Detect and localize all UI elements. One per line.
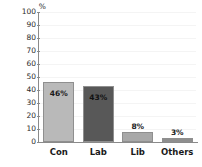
bar: 43% — [83, 86, 114, 142]
y-axis-tick: 70 — [8, 47, 36, 55]
bars-layer: 46%43%8%3% — [39, 12, 197, 142]
x-axis-label: Con — [39, 146, 79, 158]
bar-value-label: 46% — [44, 89, 73, 98]
bar-group: 8% — [122, 12, 153, 142]
y-axis-tick: 60 — [8, 60, 36, 68]
bar: 3% — [162, 138, 193, 142]
y-axis-tick: 30 — [8, 99, 36, 107]
x-axis-label: Others — [158, 146, 198, 158]
bar-group: 46% — [43, 12, 74, 142]
bar: 8% — [122, 132, 153, 142]
y-axis-tick: 100 — [8, 8, 36, 16]
x-axis-category-labels: ConLabLibOthers — [39, 146, 197, 162]
y-axis-tick: 20 — [8, 112, 36, 120]
x-axis-line — [38, 142, 198, 143]
bar-value-label: 43% — [84, 93, 113, 102]
y-axis-tick: 0 — [8, 138, 36, 146]
x-axis-label: Lib — [118, 146, 158, 158]
y-axis-tick: 80 — [8, 34, 36, 42]
y-axis-tick-labels: 1009080706050403020100 — [8, 12, 36, 143]
y-axis-tick: 10 — [8, 125, 36, 133]
y-axis-tick: 90 — [8, 21, 36, 29]
bar: 46% — [43, 82, 74, 142]
y-axis-tick: 40 — [8, 86, 36, 94]
bar-group: 3% — [162, 12, 193, 142]
x-axis-label: Lab — [79, 146, 119, 158]
bar-chart: % 1009080706050403020100 46%43%8%3% ConL… — [0, 0, 202, 167]
y-axis-tick: 50 — [8, 73, 36, 81]
bar-value-label: 8% — [123, 122, 152, 131]
bar-value-label: 3% — [163, 128, 192, 137]
bar-group: 43% — [83, 12, 114, 142]
